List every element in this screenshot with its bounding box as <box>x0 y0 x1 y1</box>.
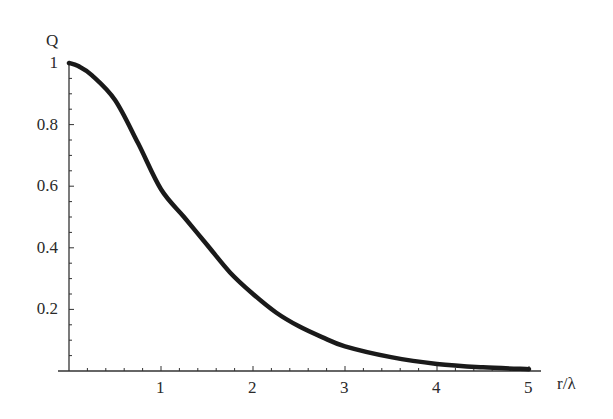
x-tick-label: 5 <box>524 379 533 396</box>
y-tick-label: 0.4 <box>37 239 58 256</box>
x-tick-label: 2 <box>248 379 257 396</box>
y-tick-label: 0.8 <box>37 116 58 133</box>
chart-canvas <box>0 0 613 419</box>
y-tick-label: 0.2 <box>37 300 58 317</box>
x-axis-label: r/λ <box>557 375 576 392</box>
y-tick-label: 0.6 <box>37 177 58 194</box>
data-curve <box>69 63 529 369</box>
y-axis-label: Q <box>46 32 58 49</box>
x-tick-label: 3 <box>340 379 349 396</box>
x-tick-label: 1 <box>156 379 165 396</box>
y-tick-label: 1 <box>50 54 59 71</box>
x-tick-label: 4 <box>432 379 441 396</box>
